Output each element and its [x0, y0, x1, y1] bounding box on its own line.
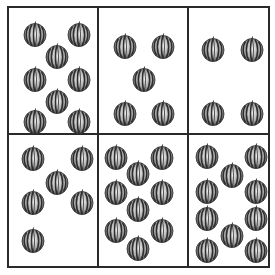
- watermelon-icon: [23, 66, 47, 92]
- watermelon-icon: [67, 108, 91, 134]
- watermelon-icon: [201, 36, 225, 62]
- cell-top-middle: [99, 8, 187, 133]
- watermelon-icon: [244, 205, 268, 231]
- watermelon-icon: [45, 169, 69, 195]
- watermelon-icon: [23, 21, 47, 47]
- watermelon-icon: [195, 178, 219, 204]
- watermelon-icon: [126, 235, 150, 261]
- watermelon-icon: [240, 36, 264, 62]
- watermelon-icon: [126, 196, 150, 222]
- watermelon-icon: [45, 43, 69, 69]
- watermelon-icon: [70, 189, 94, 215]
- cell-bottom-middle: [99, 135, 187, 266]
- watermelon-icon: [244, 143, 268, 169]
- watermelon-icon: [45, 88, 69, 114]
- cell-bottom-left: [9, 135, 97, 266]
- watermelon-icon: [195, 237, 219, 263]
- counting-grid: [7, 6, 270, 268]
- watermelon-icon: [21, 189, 45, 215]
- watermelon-icon: [104, 217, 128, 243]
- watermelon-icon: [21, 145, 45, 171]
- watermelon-icon: [220, 222, 244, 248]
- watermelon-icon: [195, 143, 219, 169]
- watermelon-icon: [104, 144, 128, 170]
- watermelon-icon: [244, 178, 268, 204]
- watermelon-icon: [23, 108, 47, 134]
- watermelon-icon: [150, 144, 174, 170]
- cell-bottom-right: [189, 135, 268, 266]
- watermelon-icon: [104, 179, 128, 205]
- cell-top-right: [189, 8, 268, 133]
- watermelon-icon: [240, 100, 264, 126]
- watermelon-icon: [132, 66, 156, 92]
- watermelon-icon: [195, 205, 219, 231]
- watermelon-icon: [67, 21, 91, 47]
- watermelon-icon: [113, 33, 137, 59]
- watermelon-icon: [220, 162, 244, 188]
- watermelon-icon: [67, 66, 91, 92]
- watermelon-icon: [70, 145, 94, 171]
- watermelon-icon: [126, 160, 150, 186]
- watermelon-icon: [21, 227, 45, 253]
- cell-top-left: [9, 8, 97, 133]
- watermelon-icon: [113, 100, 137, 126]
- watermelon-icon: [151, 33, 175, 59]
- watermelon-icon: [150, 217, 174, 243]
- watermelon-icon: [150, 179, 174, 205]
- watermelon-icon: [151, 100, 175, 126]
- watermelon-icon: [244, 237, 268, 263]
- watermelon-icon: [201, 100, 225, 126]
